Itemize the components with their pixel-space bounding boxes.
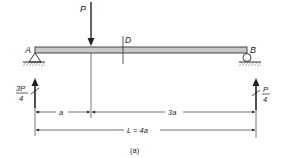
left-reaction-arrow — [31, 78, 39, 108]
left-reaction-numerator: 3P — [16, 84, 25, 93]
roller-support-icon — [239, 54, 261, 67]
dimension-total-length-label: L = 4a — [127, 126, 148, 135]
beam-diagram: P A B D 3P 4 P 4 a — [0, 0, 282, 158]
left-reaction-denominator: 4 — [19, 94, 23, 103]
support-a-label: A — [24, 45, 31, 55]
figure-caption: (a) — [130, 146, 140, 155]
applied-load-arrow — [88, 2, 95, 46]
right-reaction-arrow — [252, 78, 260, 110]
right-reaction-numerator: P — [263, 85, 268, 94]
applied-load-label: P — [80, 4, 86, 14]
dimension-3a-label: 3a — [168, 108, 176, 117]
section-d-label: D — [125, 35, 131, 45]
support-b-label: B — [250, 45, 256, 55]
dimension-a-label: a — [59, 108, 63, 117]
right-reaction-denominator: 4 — [263, 95, 267, 104]
beam — [35, 47, 247, 53]
